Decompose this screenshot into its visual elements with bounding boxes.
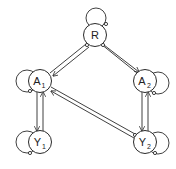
node-y2-label: Y — [139, 136, 147, 148]
node-a1-label: A — [33, 75, 41, 87]
node-r: R — [84, 24, 107, 47]
edge-a2-y2 — [142, 92, 148, 131]
graph-svg: R A 1 A 2 Y 1 Y 2 — [0, 0, 176, 169]
edge-r-to-a1 — [50, 43, 89, 76]
edge-r-to-a2 — [101, 43, 139, 73]
node-r-label: R — [91, 29, 99, 41]
node-y1: Y 1 — [29, 131, 52, 154]
node-y2: Y 2 — [134, 131, 157, 154]
edge-a1-y1 — [37, 92, 43, 131]
edge-y2-to-a1 — [51, 87, 137, 138]
node-a2-label: A — [138, 75, 146, 87]
node-y2-subscript: 2 — [147, 143, 151, 150]
node-a1: A 1 — [29, 70, 52, 93]
node-a2-subscript: 2 — [147, 82, 151, 89]
diagram-canvas: R A 1 A 2 Y 1 Y 2 — [0, 0, 176, 169]
node-a1-subscript: 1 — [42, 82, 46, 89]
node-a2: A 2 — [134, 70, 157, 93]
node-y1-label: Y — [34, 136, 42, 148]
node-y1-subscript: 1 — [42, 143, 46, 150]
